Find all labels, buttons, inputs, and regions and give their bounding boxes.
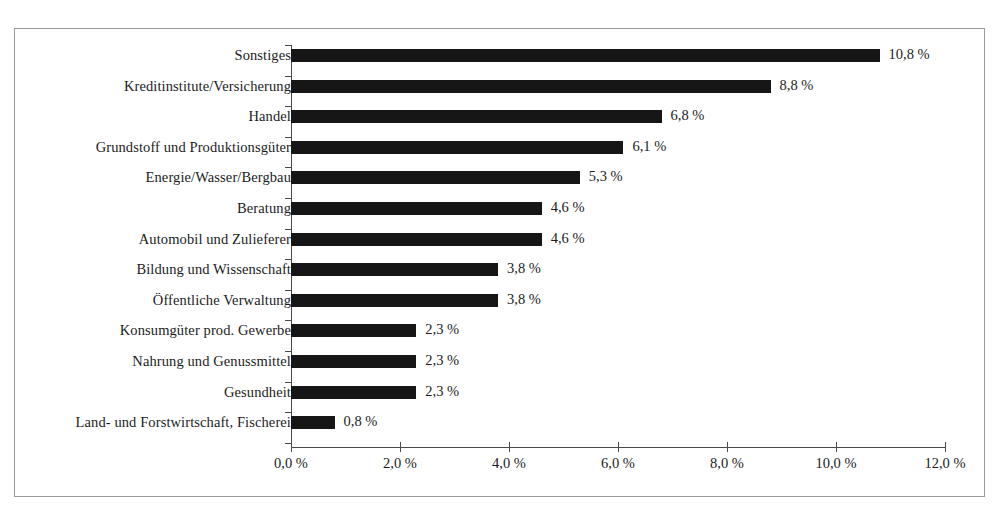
y-axis-tick	[285, 412, 291, 413]
bar	[291, 233, 542, 246]
bar	[291, 324, 416, 337]
bar	[291, 355, 416, 368]
x-axis-tick	[400, 442, 401, 452]
category-label: Kreditinstitute/Versicherung	[124, 79, 291, 93]
x-axis-tick-label: 2,0 %	[383, 455, 417, 471]
bar	[291, 110, 662, 123]
x-axis-tick-label: 4,0 %	[492, 455, 526, 471]
bar	[291, 202, 542, 215]
category-label: Land- und Forstwirtschaft, Fischerei	[76, 415, 291, 429]
y-axis-tick	[285, 320, 291, 321]
y-axis-tick	[285, 198, 291, 199]
bar	[291, 171, 580, 184]
bar	[291, 416, 335, 429]
x-axis-tick	[509, 442, 510, 452]
bar-value-label: 10,8 %	[889, 48, 930, 61]
category-label: Automobil und Zulieferer	[139, 232, 291, 246]
x-axis-tick	[727, 442, 728, 452]
bar	[291, 294, 498, 307]
y-axis-tick	[285, 259, 291, 260]
bar-value-label: 8,8 %	[780, 79, 814, 92]
x-axis-tick-label: 12,0 %	[924, 455, 965, 471]
bar	[291, 263, 498, 276]
bar-value-label: 4,6 %	[551, 201, 585, 214]
x-axis-tick	[836, 442, 837, 452]
bar	[291, 386, 416, 399]
category-label: Nahrung und Genussmittel	[132, 354, 291, 368]
x-axis-tick-label: 10,0 %	[815, 455, 856, 471]
category-label: Öffentliche Verwaltung	[153, 293, 291, 307]
bar	[291, 80, 771, 93]
bar-value-label: 3,8 %	[507, 262, 541, 275]
bar-value-label: 5,3 %	[589, 170, 623, 183]
category-label: Energie/Wasser/Bergbau	[146, 170, 291, 184]
bar-value-label: 2,3 %	[425, 354, 459, 367]
y-axis-tick	[285, 290, 291, 291]
bar-value-label: 2,3 %	[425, 323, 459, 336]
y-axis-tick	[285, 382, 291, 383]
bar	[291, 49, 880, 62]
bar	[291, 141, 623, 154]
y-axis-tick	[285, 106, 291, 107]
bar-value-label: 4,6 %	[551, 232, 585, 245]
bar-value-label: 0,8 %	[344, 415, 378, 428]
category-label: Gesundheit	[224, 385, 291, 399]
y-axis-tick	[285, 76, 291, 77]
category-label: Handel	[249, 109, 291, 123]
category-label: Grundstoff und Produktionsgüter	[96, 140, 291, 154]
x-axis-tick-label: 0,0 %	[274, 455, 308, 471]
y-axis-tick	[285, 351, 291, 352]
x-axis-tick-label: 8,0 %	[710, 455, 744, 471]
bar-value-label: 2,3 %	[425, 385, 459, 398]
x-axis-tick	[291, 442, 292, 452]
bar-value-label: 6,8 %	[671, 109, 705, 122]
y-axis-tick	[285, 167, 291, 168]
y-axis-tick	[285, 137, 291, 138]
bar-chart-plot: Sonstiges10,8 %Kreditinstitute/Versicher…	[0, 0, 1008, 515]
y-axis-tick	[285, 229, 291, 230]
category-label: Beratung	[237, 201, 291, 215]
x-axis-tick-label: 6,0 %	[601, 455, 635, 471]
category-label: Konsumgüter prod. Gewerbe	[120, 323, 291, 337]
category-label: Sonstiges	[235, 48, 292, 62]
x-axis-tick	[618, 442, 619, 452]
bar-value-label: 6,1 %	[632, 140, 666, 153]
bar-value-label: 3,8 %	[507, 293, 541, 306]
y-axis-tick	[285, 45, 291, 46]
category-label: Bildung und Wissenschaft	[136, 262, 291, 276]
x-axis-tick	[945, 442, 946, 452]
